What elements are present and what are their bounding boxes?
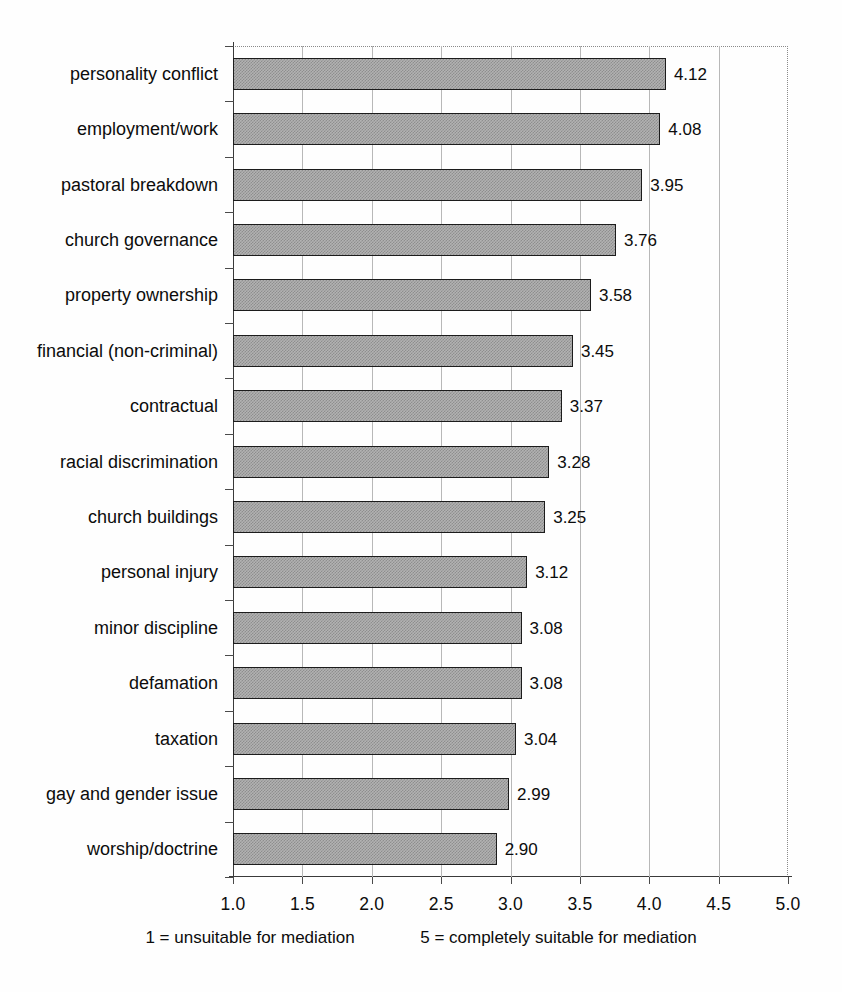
y-tick-mark — [225, 323, 234, 324]
x-tick-mark — [233, 877, 234, 884]
category-label: racial discrimination — [60, 453, 218, 471]
x-tick-label: 2.0 — [359, 894, 384, 915]
y-tick-mark — [225, 101, 234, 102]
y-tick-mark — [225, 157, 234, 158]
category-label: financial (non-criminal) — [37, 342, 218, 360]
x-tick-label: 3.5 — [567, 894, 592, 915]
category-label: personal injury — [101, 563, 218, 581]
category-label: church buildings — [88, 508, 218, 526]
bar — [233, 612, 522, 644]
x-tick-mark — [649, 877, 650, 884]
category-label: church governance — [65, 231, 218, 249]
plot-frame-right — [787, 46, 788, 877]
bar-value-label: 3.28 — [557, 454, 590, 471]
y-tick-mark — [225, 766, 234, 767]
bar — [233, 58, 666, 90]
category-label: minor discipline — [94, 619, 218, 637]
x-tick-label: 5.0 — [776, 894, 801, 915]
y-tick-mark — [225, 655, 234, 656]
x-tick-mark — [302, 877, 303, 884]
bar — [233, 279, 591, 311]
category-label: property ownership — [65, 286, 218, 304]
x-tick-mark — [511, 877, 512, 884]
category-label: gay and gender issue — [46, 785, 218, 803]
bar — [233, 446, 549, 478]
bar-value-label: 3.08 — [530, 675, 563, 692]
bar — [233, 113, 660, 145]
x-tick-mark — [372, 877, 373, 884]
bar — [233, 723, 516, 755]
y-tick-mark — [225, 711, 234, 712]
bar-value-label: 3.37 — [570, 398, 603, 415]
bar — [233, 390, 562, 422]
x-tick-label: 1.5 — [290, 894, 315, 915]
x-tick-mark — [441, 877, 442, 884]
y-tick-mark — [225, 877, 234, 878]
bar — [233, 556, 527, 588]
bar — [233, 224, 616, 256]
x-tick-label: 4.5 — [706, 894, 731, 915]
x-tick-label: 4.0 — [637, 894, 662, 915]
y-tick-mark — [225, 212, 234, 213]
category-label: pastoral breakdown — [61, 176, 218, 194]
y-tick-mark — [225, 434, 234, 435]
y-tick-mark — [225, 489, 234, 490]
bar-value-label: 3.95 — [650, 177, 683, 194]
y-tick-mark — [225, 46, 234, 47]
bar-value-label: 3.58 — [599, 287, 632, 304]
bar — [233, 667, 522, 699]
x-tick-mark — [580, 877, 581, 884]
x-tick-mark — [719, 877, 720, 884]
category-label: personality conflict — [70, 65, 218, 83]
scale-low-label: 1 = unsuitable for mediation — [145, 928, 354, 947]
y-tick-mark — [225, 545, 234, 546]
bar-value-label: 3.12 — [535, 564, 568, 581]
bar — [233, 335, 573, 367]
bar — [233, 833, 497, 865]
plot-area: 1.01.52.02.53.03.54.04.55.0 4.124.083.95… — [233, 46, 788, 877]
x-tick-label: 3.0 — [498, 894, 523, 915]
y-tick-mark — [225, 822, 234, 823]
gridline — [719, 46, 720, 877]
bar-chart: 1.01.52.02.53.03.54.04.55.0 4.124.083.95… — [0, 0, 842, 992]
y-tick-mark — [225, 600, 234, 601]
scale-high-label: 5 = completely suitable for mediation — [420, 928, 696, 947]
category-label: employment/work — [77, 120, 218, 138]
category-label: taxation — [155, 730, 218, 748]
bar-value-label: 3.76 — [624, 232, 657, 249]
bar — [233, 501, 545, 533]
category-label: worship/doctrine — [87, 840, 218, 858]
bar-value-label: 4.12 — [674, 66, 707, 83]
bar — [233, 169, 642, 201]
bar-value-label: 2.99 — [517, 786, 550, 803]
category-label: defamation — [129, 674, 218, 692]
y-tick-mark — [225, 378, 234, 379]
bar-value-label: 3.08 — [530, 620, 563, 637]
bar-value-label: 4.08 — [668, 121, 701, 138]
bar-value-label: 3.25 — [553, 509, 586, 526]
x-tick-mark — [788, 877, 789, 884]
x-tick-label: 1.0 — [221, 894, 246, 915]
x-tick-label: 2.5 — [429, 894, 454, 915]
gridline — [649, 46, 650, 877]
bar — [233, 778, 509, 810]
bar-value-label: 3.04 — [524, 731, 557, 748]
y-tick-mark — [225, 268, 234, 269]
scale-caption: 1 = unsuitable for mediation 5 = complet… — [0, 928, 842, 948]
category-label: contractual — [130, 397, 218, 415]
bar-value-label: 2.90 — [505, 841, 538, 858]
bar-value-label: 3.45 — [581, 343, 614, 360]
